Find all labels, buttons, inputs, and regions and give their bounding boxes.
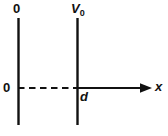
potential-step-figure: 0 V0 0 d x bbox=[0, 0, 168, 136]
figure-canvas bbox=[0, 0, 168, 136]
barrier-height-symbol: V bbox=[71, 1, 80, 16]
origin-label: 0 bbox=[3, 81, 10, 94]
barrier-height-label: V0 bbox=[71, 2, 85, 15]
x-axis-label: x bbox=[155, 80, 162, 93]
barrier-height-subscript: 0 bbox=[80, 8, 85, 18]
x-axis-arrowhead bbox=[140, 83, 152, 93]
well-top-label: 0 bbox=[13, 2, 20, 15]
barrier-width-label: d bbox=[80, 90, 88, 103]
